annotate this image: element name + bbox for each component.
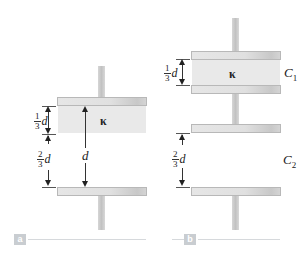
d-label: d [82,148,89,163]
kappa-label-a: κ [100,114,107,129]
tick-mid-b [176,85,190,86]
two-thirds-d-label-a: 23 d [37,150,51,169]
top-rod-b [232,18,239,52]
bottom-plate-a [57,187,147,196]
one-third-d-label-b: 13 d [164,64,178,83]
tick-bottom-a [42,187,56,188]
arrow-up-icon [179,134,185,140]
c2-bottom-plate [191,187,281,196]
arrow-up-icon [45,135,51,141]
c1-bottom-plate [191,85,281,94]
arrow-up-icon [179,59,185,65]
arrow-down-icon [82,181,88,187]
panel-label-a: a [14,234,26,245]
connecting-rod-b [232,94,239,126]
top-rod-a [98,66,105,98]
panel-label-b: b [184,234,196,245]
panel-b-baseline-left [172,239,184,240]
dielectric-slab-b [192,60,280,85]
bottom-rod-a [98,196,105,230]
panel-b-baseline [198,239,280,240]
arrow-down-icon [45,180,51,186]
c1-top-plate [191,51,281,60]
arrow-up-icon [82,106,88,112]
bottom-rod-b [232,196,239,230]
kappa-label-b: κ [229,67,236,82]
c1-label: C1 [284,66,297,83]
two-thirds-d-label-b: 23 d [172,150,186,169]
c2-label: C2 [283,153,296,170]
tick-bottom-b [176,187,190,188]
panel-a-baseline [28,239,146,240]
one-third-d-label-a: 13 d [34,112,48,131]
d-dimension-line [85,109,86,185]
arrow-down-icon [179,180,185,186]
c2-top-plate [191,124,281,133]
top-plate-a [57,97,147,106]
